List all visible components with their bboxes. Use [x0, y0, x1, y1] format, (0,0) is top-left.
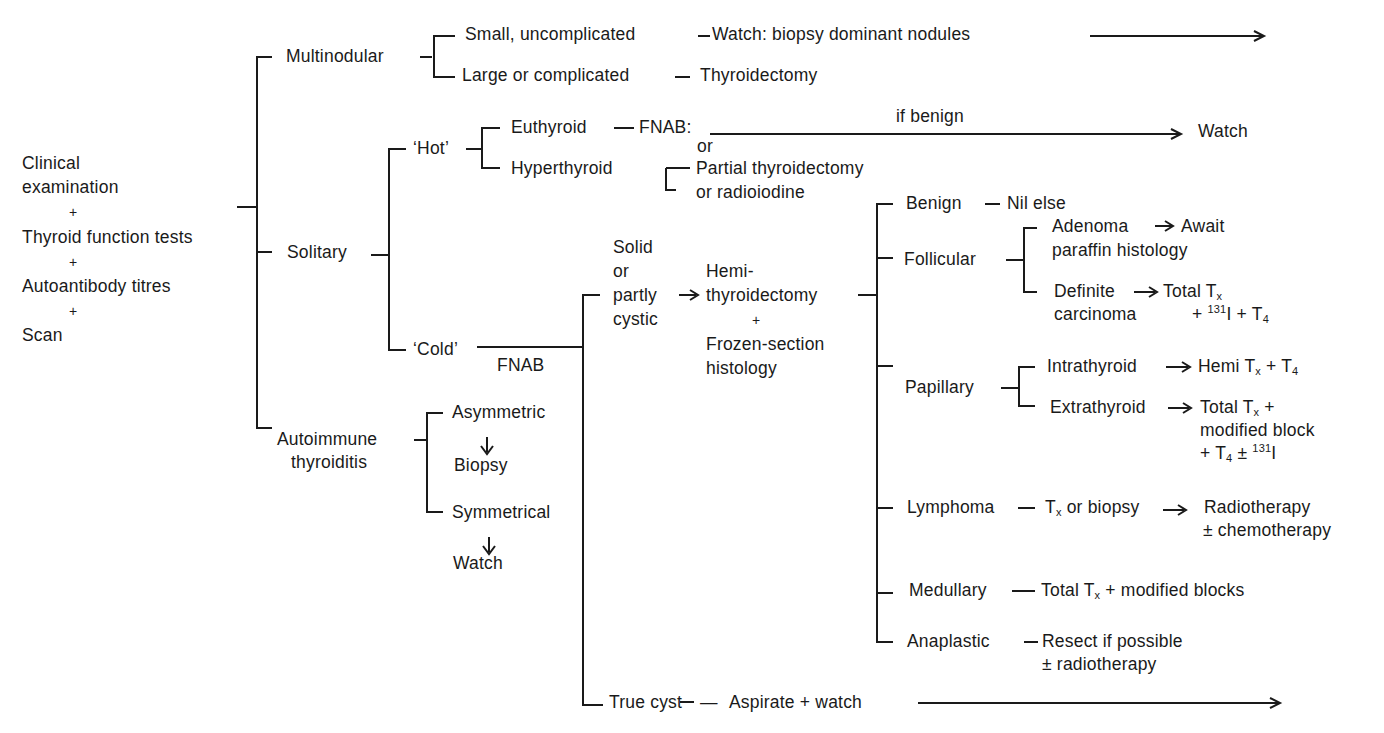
node-fnab-hot: FNAB:	[639, 117, 692, 138]
node-resect: Resect if possible	[1042, 631, 1183, 652]
label-if-benign: if benign	[896, 106, 964, 127]
connector-lines	[0, 0, 1384, 733]
node-radiotherapy-anaplastic: ± radiotherapy	[1042, 654, 1157, 675]
node-hyperthyroid: Hyperthyroid	[511, 158, 613, 179]
node-small-uncomplicated: Small, uncomplicated	[465, 24, 635, 45]
root-plus-2: +	[69, 252, 77, 273]
node-medullary: Medullary	[909, 580, 987, 601]
node-radiotherapy: Radiotherapy	[1204, 497, 1311, 518]
node-hot: ‘Hot’	[413, 138, 449, 159]
node-euthyroid: Euthyroid	[511, 117, 587, 138]
node-total-tx-follicular: Total Tx	[1163, 281, 1222, 302]
node-hemi-plus: +	[752, 310, 760, 331]
root-autoantibody-titres: Autoantibody titres	[22, 276, 171, 297]
node-hemi-3: Frozen-section	[706, 334, 825, 355]
node-hemi-4: histology	[706, 358, 777, 379]
node-extrathyroid: Extrathyroid	[1050, 397, 1146, 418]
node-ext-line2: modified block	[1200, 420, 1315, 441]
node-definite: Definite	[1054, 281, 1115, 302]
node-solid-1: Solid	[613, 237, 653, 258]
node-large-complicated: Large or complicated	[462, 65, 629, 86]
node-intrathyroid: Intrathyroid	[1047, 356, 1137, 377]
node-paraffin-histology: paraffin histology	[1052, 240, 1188, 261]
node-solid-2: or	[613, 261, 629, 282]
dash-true-cyst: —	[700, 692, 718, 713]
label-fnab-cold: FNAB	[497, 355, 544, 376]
node-biopsy: Biopsy	[454, 455, 508, 476]
node-nil-else: Nil else	[1007, 193, 1066, 214]
node-ext-line3: + T4 ± 131I	[1200, 443, 1276, 464]
node-solid-4: cystic	[613, 309, 658, 330]
node-partial-thyroidectomy: Partial thyroidectomy	[696, 158, 864, 179]
node-hemi-1: Hemi-	[706, 261, 754, 282]
node-solid-3: partly	[613, 285, 657, 306]
root-clinical: Clinical	[22, 153, 80, 174]
root-examination: examination	[22, 177, 119, 198]
root-thyroid-function-tests: Thyroid function tests	[22, 227, 193, 248]
node-ext-line1: Total Tx +	[1200, 397, 1275, 418]
node-hemi-2: thyroidectomy	[706, 285, 818, 306]
node-hemi-tx: Hemi Tx + T4	[1198, 356, 1298, 377]
node-tx-or-biopsy: Tx or biopsy	[1045, 497, 1139, 518]
node-medullary-tx: Total Tx + modified blocks	[1041, 580, 1244, 601]
node-lymphoma: Lymphoma	[907, 497, 995, 518]
node-watch-hot: Watch	[1198, 121, 1248, 142]
node-benign: Benign	[906, 193, 962, 214]
node-solitary: Solitary	[287, 242, 347, 263]
root-scan: Scan	[22, 325, 63, 346]
node-multinodular: Multinodular	[286, 46, 384, 67]
node-watch-biopsy: Watch: biopsy dominant nodules	[712, 24, 970, 45]
node-papillary: Papillary	[905, 377, 974, 398]
node-symmetrical: Symmetrical	[452, 502, 550, 523]
node-thyroiditis: thyroiditis	[291, 452, 367, 473]
node-cold: ‘Cold’	[413, 339, 458, 360]
node-follicular: Follicular	[904, 249, 976, 270]
node-adenoma: Adenoma	[1052, 216, 1128, 237]
node-chemotherapy: ± chemotherapy	[1203, 520, 1331, 541]
node-anaplastic: Anaplastic	[907, 631, 990, 652]
node-carcinoma: carcinoma	[1054, 304, 1137, 325]
node-thyroidectomy: Thyroidectomy	[700, 65, 817, 86]
node-or: or	[697, 136, 713, 157]
node-watch-autoimmune: Watch	[453, 553, 503, 574]
node-follicular-extra: + 131I + T4	[1192, 304, 1269, 325]
node-radioiodine: or radioiodine	[696, 182, 805, 203]
node-aspirate-watch: Aspirate + watch	[729, 692, 862, 713]
node-true-cyst: True cyst	[609, 692, 682, 713]
node-asymmetric: Asymmetric	[452, 402, 545, 423]
root-plus-3: +	[69, 301, 77, 322]
root-plus-1: +	[69, 202, 77, 223]
node-autoimmune: Autoimmune	[277, 429, 377, 450]
node-await: Await	[1181, 216, 1224, 237]
